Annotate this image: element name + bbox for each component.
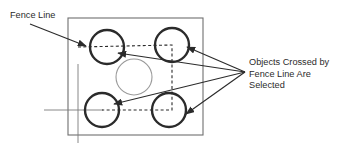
objects-crossed-label-line1: Objects Crossed by: [249, 57, 330, 67]
objects-crossed-label-line3: Selected: [249, 80, 285, 90]
objects-crossed-label-line2: Fence Line Are: [249, 69, 311, 79]
diagram-canvas: Fence Line Objects Crossed by Fence Line…: [0, 0, 339, 153]
fence-line-label: Fence Line: [10, 10, 55, 20]
fence-line-selection-diagram: Fence Line Objects Crossed by Fence Line…: [0, 0, 339, 153]
